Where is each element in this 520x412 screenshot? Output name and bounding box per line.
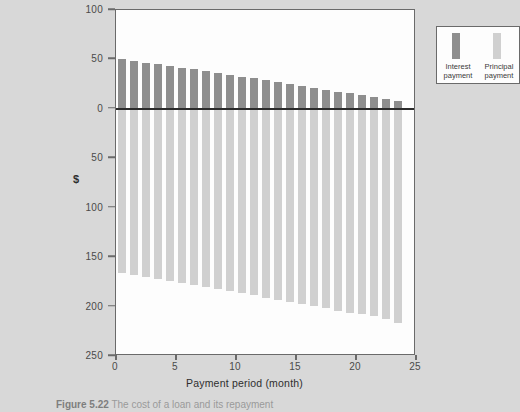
bar-interest <box>166 66 173 109</box>
y-tick-mark <box>108 206 115 208</box>
chart-legend: Interest payment Principal payment <box>436 26 520 84</box>
bar-principal <box>298 110 305 304</box>
y-tick-mark <box>108 107 115 109</box>
bar-principal <box>190 110 197 285</box>
bar-interest <box>142 63 149 109</box>
bar-principal <box>310 110 317 306</box>
bar-interest <box>334 92 341 109</box>
x-tick-label: 0 <box>100 361 130 372</box>
legend-label-principal-line2: payment <box>479 71 519 80</box>
bar-interest <box>262 80 269 109</box>
legend-label-principal-line1: Principal <box>479 62 519 71</box>
bar-principal <box>202 110 209 287</box>
bar-interest <box>358 95 365 109</box>
bar-principal <box>346 110 353 313</box>
bar-interest <box>322 90 329 109</box>
bar-principal <box>358 110 365 315</box>
bar-principal <box>250 110 257 295</box>
legend-label-principal: Principal payment <box>479 62 519 80</box>
bar-interest <box>250 78 257 109</box>
bar-principal <box>394 110 401 324</box>
bar-principal <box>118 110 125 273</box>
bar-interest <box>346 93 353 109</box>
bar-principal <box>154 110 161 279</box>
bar-principal <box>322 110 329 308</box>
y-tick-label: 0 <box>57 102 103 113</box>
y-tick-mark <box>108 305 115 307</box>
figure-caption-number: Figure 5.22 <box>56 399 109 410</box>
y-tick-mark <box>108 354 115 356</box>
bar-interest <box>202 71 209 109</box>
y-tick-label: 100 <box>57 201 103 212</box>
bar-interest <box>154 64 161 108</box>
x-tick-mark <box>235 355 237 360</box>
legend-label-interest-line2: payment <box>438 71 478 80</box>
bar-principal <box>286 110 293 302</box>
bar-interest <box>298 86 305 109</box>
bar-interest <box>286 84 293 109</box>
bar-interest <box>214 73 221 109</box>
bar-interest <box>118 59 125 108</box>
bar-principal <box>226 110 233 291</box>
bar-interest <box>274 82 281 109</box>
x-tick-mark <box>415 355 417 360</box>
x-tick-label: 10 <box>220 361 250 372</box>
bar-principal <box>178 110 185 283</box>
bar-principal <box>274 110 281 300</box>
bar-interest <box>130 61 137 109</box>
bar-interest <box>310 88 317 109</box>
bar-principal <box>262 110 269 298</box>
zero-baseline <box>116 108 414 110</box>
x-tick-label: 5 <box>160 361 190 372</box>
y-tick-label: 250 <box>57 350 103 361</box>
bar-principal <box>214 110 221 289</box>
legend-label-interest: Interest payment <box>438 62 478 80</box>
bar-interest <box>238 77 245 109</box>
y-tick-label: 150 <box>57 251 103 262</box>
plot-area: Interest payment Principal payment <box>115 9 415 355</box>
y-tick-label: 100 <box>57 4 103 15</box>
figure-caption-text: The cost of a loan and its repayment <box>111 399 273 410</box>
y-tick-mark <box>108 157 115 159</box>
x-tick-mark <box>115 355 117 360</box>
bar-principal <box>334 110 341 311</box>
legend-swatch-interest-icon <box>452 33 460 59</box>
y-tick-mark <box>108 58 115 60</box>
figure-caption: Figure 5.22 The cost of a loan and its r… <box>56 399 476 410</box>
bar-principal <box>238 110 245 293</box>
y-tick-mark <box>108 255 115 257</box>
y-tick-label: 50 <box>57 152 103 163</box>
bar-principal <box>370 110 377 317</box>
x-tick-mark <box>355 355 357 360</box>
y-tick-label: 50 <box>57 53 103 64</box>
y-tick-mark <box>108 8 115 10</box>
y-tick-label: 200 <box>57 300 103 311</box>
bar-interest <box>178 68 185 109</box>
x-tick-mark <box>295 355 297 360</box>
x-tick-label: 25 <box>400 361 430 372</box>
bar-principal <box>166 110 173 281</box>
bar-principal <box>142 110 149 277</box>
x-tick-mark <box>175 355 177 360</box>
x-tick-label: 20 <box>340 361 370 372</box>
legend-swatch-principal-icon <box>493 33 501 59</box>
bar-interest <box>226 75 233 109</box>
x-tick-label: 15 <box>280 361 310 372</box>
legend-label-interest-line1: Interest <box>438 62 478 71</box>
bars-layer <box>116 10 414 354</box>
y-axis-title: $ <box>73 173 79 185</box>
bar-principal <box>130 110 137 275</box>
bar-principal <box>382 110 389 320</box>
x-axis-title: Payment period (month) <box>0 377 489 389</box>
bar-interest <box>190 69 197 109</box>
